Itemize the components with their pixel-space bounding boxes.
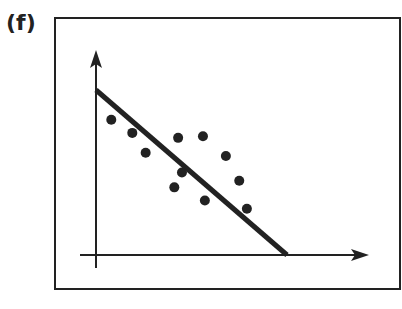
scatter-chart <box>0 0 402 309</box>
data-point <box>127 128 137 138</box>
data-point <box>234 176 244 186</box>
data-point <box>141 148 151 158</box>
data-point <box>200 196 210 206</box>
data-point <box>169 182 179 192</box>
data-point <box>106 115 116 125</box>
data-point <box>242 204 252 214</box>
data-point <box>198 131 208 141</box>
data-point <box>173 133 183 143</box>
data-point <box>221 151 231 161</box>
trend-line <box>96 90 287 255</box>
data-point <box>177 168 187 178</box>
